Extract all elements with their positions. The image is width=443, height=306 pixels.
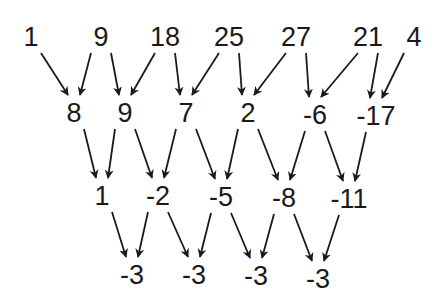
arrow [164,129,176,178]
arrow [321,53,358,97]
node-value: 1 [23,24,38,51]
arrow [200,213,211,257]
node-value: -3 [306,266,330,293]
arrow [370,53,378,98]
arrow [324,215,339,261]
node-value: 9 [93,24,108,51]
arrow [290,131,305,180]
node-value: -3 [244,263,268,290]
node-value: 18 [150,24,180,51]
arrow [80,53,91,95]
node-value: 2 [240,100,255,127]
arrow [262,214,274,258]
node-value: -6 [303,102,327,129]
arrow [227,129,238,179]
arrow [196,129,215,179]
arrow [112,212,126,257]
node-value: -17 [356,103,395,130]
arrow [239,53,242,95]
arrow [84,129,96,178]
difference-diagram: 191825272148972-6-171-2-5-8-11-3-3-3-3 [0,0,443,306]
arrow [258,129,278,180]
arrow [168,212,188,257]
node-value: -5 [209,184,233,211]
arrow [175,53,180,95]
node-value: 4 [406,24,421,51]
arrow [131,53,155,95]
node-value: -3 [182,262,206,289]
arrow [294,214,312,261]
arrow [231,213,250,258]
arrow [111,53,119,95]
arrow [306,53,309,97]
arrow [355,132,366,181]
arrow [41,53,68,95]
node-value: 9 [117,100,132,127]
node-value: 7 [178,100,193,127]
node-value: 25 [214,24,244,51]
node-value: 21 [353,24,383,51]
node-value: -11 [330,186,367,213]
node-value: 27 [281,24,311,51]
arrow [254,53,286,95]
node-value: -3 [120,262,144,289]
arrow [192,53,219,95]
arrow [108,129,115,178]
arrow [382,53,404,98]
node-value: 8 [66,100,81,127]
node-value: 1 [94,183,109,210]
arrow [135,129,152,178]
node-value: -8 [272,185,296,212]
arrow [325,131,343,181]
node-value: -2 [146,183,170,210]
arrow [138,212,148,257]
